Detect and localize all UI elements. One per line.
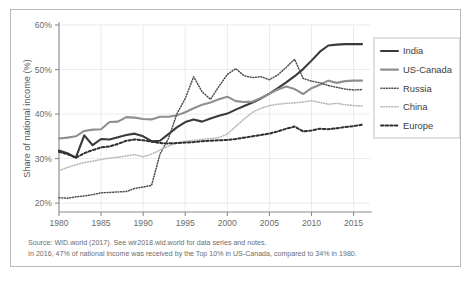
chart-legend: IndiaUS-CanadaRussiaChinaEurope — [374, 38, 460, 138]
ytick-label-40%: 40% — [35, 109, 53, 119]
xtick-label-2000: 2000 — [218, 218, 237, 228]
y-axis-title: Share of national income (%) — [22, 59, 32, 177]
ytick-label-50%: 50% — [35, 65, 53, 75]
ytick-label-30%: 30% — [35, 154, 53, 164]
y-axis-title-group: Share of national income (%) — [22, 59, 32, 177]
footnotes-block: Source: WID.world (2017). See wir2018.wi… — [28, 238, 443, 259]
legend-label-us-canada[interactable]: US-Canada — [403, 64, 453, 75]
legend-label-europe[interactable]: Europe — [403, 120, 433, 131]
data-series-group — [59, 44, 362, 198]
gridlines-group — [59, 25, 370, 212]
axis-ticks-group: 20%30%40%50%60%1980198519901995200020052… — [35, 20, 364, 228]
footnote-note: In 2016, 47% of national income was rece… — [28, 249, 443, 260]
xtick-label-1980: 1980 — [49, 218, 68, 228]
xtick-label-1995: 1995 — [176, 218, 195, 228]
chart-figure-root: 20%30%40%50%60%1980198519901995200020052… — [0, 0, 472, 285]
footnote-source: Source: WID.world (2017). See wir2018.wi… — [28, 238, 443, 249]
ytick-label-60%: 60% — [35, 20, 53, 30]
xtick-label-2010: 2010 — [302, 218, 321, 228]
series-line-china — [59, 101, 362, 171]
legend-label-india[interactable]: India — [403, 45, 424, 56]
xtick-label-1990: 1990 — [134, 218, 153, 228]
ytick-label-20%: 20% — [35, 198, 53, 208]
xtick-label-2005: 2005 — [260, 218, 279, 228]
legend-label-china[interactable]: China — [403, 101, 428, 112]
xtick-label-1985: 1985 — [92, 218, 111, 228]
series-line-europe — [59, 125, 362, 158]
legend-label-russia[interactable]: Russia — [403, 83, 432, 94]
xtick-label-2015: 2015 — [344, 218, 363, 228]
